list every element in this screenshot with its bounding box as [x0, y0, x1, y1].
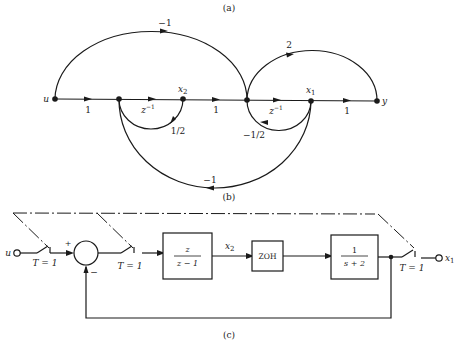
node-x2 — [180, 96, 186, 102]
sampler-sync-link — [97, 213, 133, 248]
node-n3 — [244, 97, 250, 103]
sum-plus-sign: + — [65, 239, 72, 248]
block3-numerator: 1 — [352, 246, 357, 255]
arrow-icon — [206, 186, 214, 191]
gain-label: −1 — [203, 175, 216, 185]
arrow-icon — [148, 97, 156, 102]
sampler-label-1: T = 1 — [33, 258, 58, 268]
node-n1 — [116, 96, 122, 102]
gain-label: 2 — [286, 40, 292, 50]
block-diagram: u T = 1 + − T = 1 z z − 1 x2 ZOH 1 s — [5, 213, 454, 318]
arrow-icon — [273, 98, 281, 103]
arrow-icon — [84, 97, 92, 102]
node-label-x2: x2 — [178, 84, 188, 96]
node-label-x1: x1 — [306, 85, 316, 97]
node-x1 — [308, 98, 314, 104]
sampler-sync-line — [13, 213, 375, 214]
sampler-sync-link — [378, 214, 414, 248]
sampler-label-2: T = 1 — [118, 261, 143, 271]
node-label-u: u — [43, 94, 49, 104]
node-label-y: y — [381, 96, 388, 106]
signal-flow-graph: −1 2 1/2 −1/2 −1 u x2 x1 y 1 z−1 1 z−1 — [43, 18, 388, 191]
sum-minus-sign: − — [90, 267, 98, 277]
sampler-switch-2 — [121, 246, 132, 253]
arrow-icon — [84, 265, 89, 273]
input-terminal — [14, 250, 20, 256]
node-y — [374, 98, 380, 104]
gain-label: z−1 — [268, 104, 283, 116]
gain-label: 1 — [344, 106, 350, 116]
arrow-icon — [286, 53, 294, 58]
arrow-icon — [212, 97, 220, 102]
caption-b: (b) — [223, 192, 236, 202]
node-u — [52, 96, 58, 102]
arrow-icon — [170, 116, 176, 124]
gain-label: 1 — [85, 105, 91, 115]
caption-a: (a) — [223, 3, 235, 13]
signal-label-x2: x2 — [225, 241, 235, 253]
caption-c: (c) — [223, 330, 235, 340]
gain-label: −1/2 — [243, 130, 265, 140]
sampler-label-3: T = 1 — [400, 263, 425, 273]
block1-numerator: z — [184, 245, 190, 254]
sampler-switch-3 — [402, 250, 413, 257]
branch-u-to-n3 — [55, 32, 247, 100]
gain-label: z−1 — [140, 103, 155, 115]
output-terminal — [436, 255, 442, 261]
gain-label: 1 — [213, 105, 219, 115]
arrow-icon — [260, 120, 268, 125]
sampler-switch-1 — [37, 246, 48, 253]
gain-label: 1/2 — [171, 126, 185, 136]
output-label: x1 — [445, 253, 455, 265]
summing-junction — [74, 241, 98, 265]
arrow-icon — [343, 98, 351, 103]
input-label: u — [5, 248, 11, 258]
sampler-sync-link — [13, 213, 49, 248]
gain-label: −1 — [158, 18, 171, 28]
zoh-label: ZOH — [259, 252, 277, 261]
block3-denominator: s + 2 — [344, 259, 365, 268]
figure-canvas: (a) −1 2 1/2 −1/2 −1 — [0, 0, 459, 344]
block1-denominator: z − 1 — [176, 259, 198, 268]
block-plant — [331, 235, 378, 279]
